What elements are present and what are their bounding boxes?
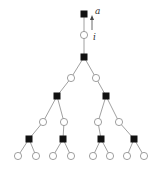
square-node xyxy=(81,11,88,18)
square-node xyxy=(103,93,110,100)
circle-node xyxy=(123,152,130,159)
circle-node xyxy=(67,152,74,159)
label-i: i xyxy=(93,32,96,42)
circle-node xyxy=(14,152,21,159)
circle-node xyxy=(140,152,147,159)
square-node xyxy=(98,136,105,143)
tree-diagram: a i xyxy=(0,0,158,169)
circle-node xyxy=(89,152,96,159)
square-node xyxy=(26,136,33,143)
circle-node xyxy=(49,152,56,159)
tree-nodes xyxy=(14,11,147,160)
square-node xyxy=(54,93,61,100)
circle-node xyxy=(67,74,74,81)
tree-edge xyxy=(106,96,119,122)
tree-edge xyxy=(43,96,57,122)
arrow-annotation xyxy=(90,15,94,30)
circle-node xyxy=(32,152,39,159)
arrow-head-icon xyxy=(90,15,94,20)
circle-node xyxy=(115,118,122,125)
circle-node xyxy=(94,118,101,125)
circle-node xyxy=(39,118,46,125)
square-node xyxy=(131,136,138,143)
label-a: a xyxy=(95,6,100,16)
circle-node xyxy=(60,118,67,125)
circle-node xyxy=(80,31,87,38)
circle-node xyxy=(106,152,113,159)
circle-node xyxy=(92,74,99,81)
square-node xyxy=(81,54,88,61)
tree-edge xyxy=(57,96,64,122)
tree-edge xyxy=(98,96,106,122)
square-node xyxy=(60,136,67,143)
